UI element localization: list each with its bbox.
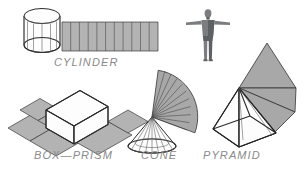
cylinder-net xyxy=(62,22,158,51)
figure-right-leg xyxy=(209,41,213,60)
figure-left-leg xyxy=(204,41,208,60)
figure-hips xyxy=(203,36,213,41)
cylinder-label: CYLINDER xyxy=(54,56,118,68)
figure-left-foot xyxy=(203,59,207,61)
diagram-canvas: CYLINDER xyxy=(0,0,305,171)
geometry-nets-diagram: CYLINDER xyxy=(0,0,305,171)
figure-head xyxy=(205,9,212,17)
box-prism-label: BOX—PRISM xyxy=(34,149,113,161)
figure-right-foot xyxy=(209,59,213,61)
cylinder-solid xyxy=(24,9,60,53)
pyramid-label: PYRAMID xyxy=(203,149,261,161)
cone-label: CONE xyxy=(141,149,177,161)
figure-neck xyxy=(206,17,209,20)
cylinder-net-rectangle xyxy=(62,22,158,51)
